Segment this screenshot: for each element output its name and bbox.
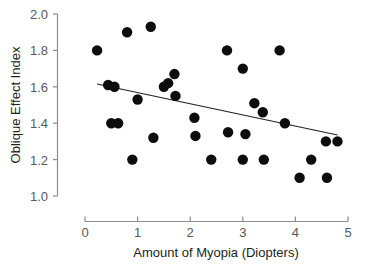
y-tick-label-1.6: 1.6: [30, 80, 48, 95]
data-point: [322, 173, 332, 183]
x-tick-label-3: 3: [239, 225, 246, 240]
data-point: [249, 98, 259, 108]
x-axis-title: Amount of Myopia (Diopters): [133, 245, 298, 260]
x-tick-label-4: 4: [292, 225, 299, 240]
data-point: [169, 69, 179, 79]
data-point: [321, 136, 331, 146]
data-point: [238, 154, 248, 164]
data-point: [258, 107, 268, 117]
x-tick-label-1: 1: [134, 225, 141, 240]
x-tick-label-0: 0: [81, 225, 88, 240]
data-point: [148, 133, 158, 143]
y-axis-ticks: [53, 14, 58, 196]
data-point: [240, 129, 250, 139]
y-tick-label-2.0: 2.0: [30, 7, 48, 22]
data-point: [259, 154, 269, 164]
y-tick-label-1.2: 1.2: [30, 153, 48, 168]
data-point: [332, 136, 342, 146]
data-point: [223, 127, 233, 137]
data-point: [163, 78, 173, 88]
data-point: [206, 154, 216, 164]
data-point: [238, 63, 248, 73]
data-point: [280, 118, 290, 128]
x-tick-label-2: 2: [187, 225, 194, 240]
y-tick-label-1.0: 1.0: [30, 189, 48, 204]
data-point: [306, 154, 316, 164]
scatter-plot-figure: 2.0 1.8 1.6 1.4 1.2 1.0 0 1 2 3 4 5 Amou…: [0, 0, 375, 267]
data-point: [127, 154, 137, 164]
data-point: [109, 82, 119, 92]
data-point: [92, 45, 102, 55]
data-points-group: [92, 22, 343, 183]
data-point: [146, 22, 156, 32]
data-point: [190, 131, 200, 141]
x-axis-ticks: [85, 217, 348, 222]
data-point: [122, 27, 132, 37]
data-point: [274, 45, 284, 55]
chart-canvas: 2.0 1.8 1.6 1.4 1.2 1.0 0 1 2 3 4 5 Amou…: [0, 0, 375, 267]
y-tick-label-1.4: 1.4: [30, 116, 48, 131]
y-tick-label-1.8: 1.8: [30, 43, 48, 58]
trend-line: [97, 84, 337, 135]
data-point: [170, 91, 180, 101]
data-point: [222, 45, 232, 55]
y-axis-title: Oblique Effect Index: [8, 46, 23, 163]
data-point: [294, 173, 304, 183]
data-point: [113, 118, 123, 128]
data-point: [132, 94, 142, 104]
x-tick-label-5: 5: [344, 225, 351, 240]
data-point: [189, 113, 199, 123]
